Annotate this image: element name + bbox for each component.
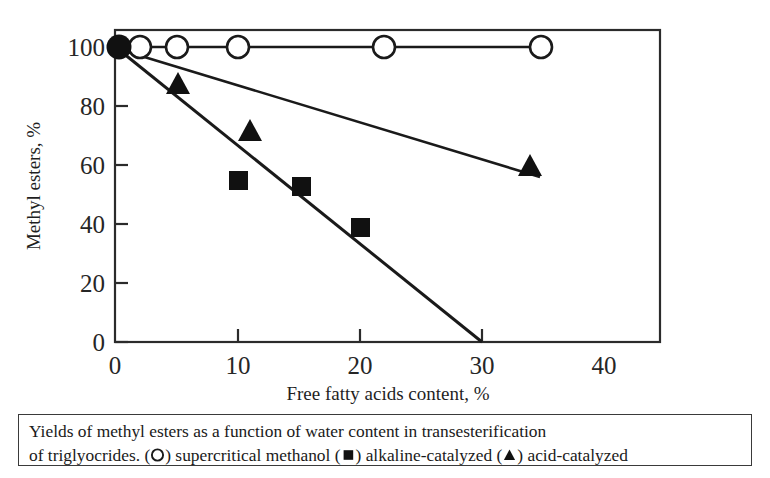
chart-svg: 0 20 40 60 80 100 0 10 20 30 40 Free fat…: [0, 0, 770, 405]
legend-filled-triangle-icon: [502, 444, 517, 468]
x-tick-label-20: 20: [348, 352, 373, 379]
marker-open-circle: [166, 36, 188, 58]
marker-open-circle: [530, 36, 552, 58]
y-tick-label-20: 20: [80, 270, 105, 297]
marker-filled-triangle: [166, 72, 190, 94]
caption-line-2: of triglyocrides. () supercritical metha…: [29, 443, 743, 468]
y-axis-title: Methyl esters, %: [23, 122, 44, 250]
x-tick-label-10: 10: [226, 352, 251, 379]
caption-line-2-part-a: of triglyocrides. (: [29, 445, 150, 465]
marker-filled-square: [292, 177, 311, 196]
caption-line-1: Yields of methyl esters as a function of…: [29, 419, 743, 443]
y-tick-label-0: 0: [93, 329, 106, 356]
caption-line-2-part-d: ) acid-catalyzed: [517, 445, 628, 465]
caption-line-2-part-b: ) supercritical methanol (: [165, 445, 340, 465]
marker-open-circle: [373, 36, 395, 58]
x-tick-labels: 0 10 20 30 40: [109, 352, 617, 379]
markers-alkaline-catalyzed: [229, 171, 370, 237]
legend-filled-square-icon: [341, 444, 356, 468]
y-tick-label-60: 60: [80, 152, 105, 179]
figure-caption-box: Yields of methyl esters as a function of…: [18, 414, 752, 466]
legend-open-circle-icon: [150, 444, 165, 468]
marker-filled-triangle: [518, 154, 542, 176]
y-axis-ticks: [115, 47, 128, 342]
figure-caption-text: Yields of methyl esters as a function of…: [29, 419, 743, 468]
x-axis-title: Free fatty acids content, %: [286, 383, 489, 404]
caption-line-2-part-c: ) alkaline-catalyzed (: [356, 445, 503, 465]
y-tick-label-40: 40: [80, 211, 105, 238]
y-tick-label-100: 100: [68, 34, 106, 61]
marker-filled-square: [229, 171, 248, 190]
x-axis-ticks: [238, 329, 482, 342]
marker-filled-triangle: [238, 119, 262, 141]
plot-frame: [115, 30, 660, 342]
y-tick-label-80: 80: [80, 93, 105, 120]
marker-open-circle: [227, 36, 249, 58]
line-acid-catalyzed: [118, 49, 540, 177]
x-tick-label-0: 0: [109, 352, 122, 379]
y-tick-labels: 0 20 40 60 80 100: [68, 34, 106, 356]
chart-plot-area: 0 20 40 60 80 100 0 10 20 30 40 Free fat…: [0, 0, 770, 405]
figure: 0 20 40 60 80 100 0 10 20 30 40 Free fat…: [0, 0, 770, 478]
marker-filled-square: [351, 218, 370, 237]
axes-frame: [115, 30, 660, 342]
x-tick-label-30: 30: [470, 352, 495, 379]
x-tick-label-40: 40: [592, 352, 617, 379]
marker-open-circle: [129, 36, 151, 58]
marker-origin-filled-circle: [107, 35, 132, 60]
